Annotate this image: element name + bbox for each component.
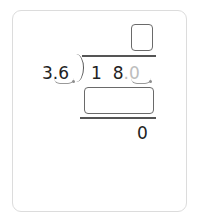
- dividend-digit-2: 8: [113, 63, 124, 83]
- arrow-head-icon: [149, 80, 152, 83]
- arrow-head-icon: [72, 80, 75, 83]
- decimal-shift-arc-dividend: [131, 78, 151, 84]
- remainder: 0: [137, 123, 148, 143]
- quotient-answer-box[interactable]: [131, 24, 153, 51]
- divisor-whole: 3: [42, 63, 53, 83]
- dividend-digit-1: 1: [91, 63, 102, 83]
- product-answer-box[interactable]: [84, 87, 154, 114]
- subtraction-line: [80, 117, 156, 119]
- division-bar: [82, 55, 156, 57]
- decimal-shift-arc-divisor: [54, 78, 74, 84]
